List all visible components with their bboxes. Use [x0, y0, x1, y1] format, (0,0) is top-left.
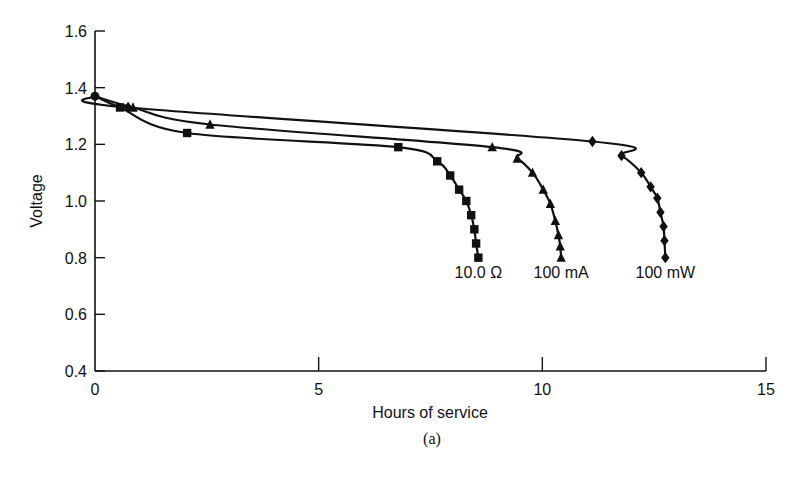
y-tick-label: 0.4 — [65, 363, 87, 380]
triangle-marker-icon — [554, 230, 563, 239]
circle-marker-icon — [91, 92, 100, 101]
diamond-marker-icon — [661, 252, 669, 263]
triangle-marker-icon — [556, 252, 565, 261]
triangle-marker-icon — [551, 216, 560, 225]
y-tick-label: 1.2 — [65, 136, 87, 153]
x-tick-label: 10 — [533, 381, 551, 398]
discharge-chart: 0.40.60.81.01.21.41.6 051015 10.0 Ω100 m… — [0, 0, 800, 495]
series-line — [95, 96, 478, 258]
square-marker-icon — [446, 171, 454, 179]
square-marker-icon — [470, 225, 478, 233]
series-label: 10.0 Ω — [455, 264, 503, 281]
axes — [95, 31, 766, 371]
square-marker-icon — [394, 143, 402, 151]
x-tick-label: 15 — [757, 381, 775, 398]
diamond-marker-icon — [588, 136, 596, 147]
square-marker-icon — [462, 197, 470, 205]
square-marker-icon — [467, 211, 475, 219]
square-marker-icon — [474, 253, 482, 261]
square-marker-icon — [472, 239, 480, 247]
y-tick-label: 1.6 — [65, 23, 87, 40]
x-tick-label: 5 — [314, 381, 323, 398]
y-axis-title: Voltage — [28, 174, 45, 227]
square-marker-icon — [183, 129, 191, 137]
x-axis-title: Hours of service — [372, 404, 488, 421]
triangle-marker-icon — [546, 199, 555, 208]
series-labels: 10.0 Ω100 mA100 mW — [455, 264, 696, 281]
diamond-marker-icon — [656, 207, 664, 218]
y-tick-label: 0.8 — [65, 250, 87, 267]
figure-caption: (a) — [423, 430, 441, 448]
diamond-marker-icon — [660, 235, 668, 246]
square-marker-icon — [455, 185, 463, 193]
series-label: 100 mA — [534, 264, 589, 281]
y-tick-label: 1.0 — [65, 193, 87, 210]
y-tick-label: 1.4 — [65, 80, 87, 97]
series-markers — [91, 92, 670, 264]
y-axis-ticks: 0.40.60.81.01.21.41.6 — [65, 23, 105, 380]
series-curves — [82, 96, 665, 258]
diamond-marker-icon — [659, 221, 667, 232]
square-marker-icon — [116, 103, 124, 111]
triangle-marker-icon — [556, 241, 565, 250]
series-line — [82, 96, 665, 258]
x-tick-label: 0 — [91, 381, 100, 398]
square-marker-icon — [433, 157, 441, 165]
x-axis-ticks: 051015 — [91, 357, 775, 398]
series-line — [95, 96, 561, 258]
y-tick-label: 0.6 — [65, 306, 87, 323]
series-label: 100 mW — [636, 264, 696, 281]
